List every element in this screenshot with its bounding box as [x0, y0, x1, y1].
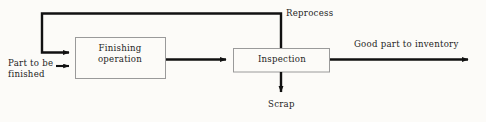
edge-reprocess-feedback-loop — [42, 14, 281, 53]
flowchart-connectors — [0, 0, 486, 122]
flowchart-canvas: Finishing operation Inspection Reprocess… — [0, 0, 486, 122]
node-finishing-operation — [76, 38, 166, 79]
edge-label-reprocess: Reprocess — [286, 8, 333, 19]
node-inspection — [234, 49, 330, 73]
edge-label-scrap: Scrap — [268, 99, 295, 110]
edge-label-part-to-be-finished: Part to be finished — [8, 58, 53, 79]
edge-label-good-part-to-inventory: Good part to inventory — [354, 39, 459, 50]
